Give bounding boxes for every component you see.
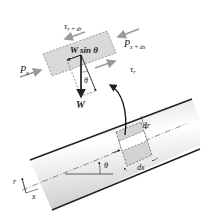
shear-top-arrow (65, 32, 85, 39)
label-dx: dx (137, 163, 145, 172)
label-x-axis: x (31, 192, 36, 201)
label-tau-top: τr + dr (64, 21, 83, 32)
label-theta-inner: θ (84, 76, 88, 85)
label-r-axis: r (13, 177, 17, 186)
shear-bottom-arrow (95, 61, 115, 68)
diagram-canvas: τr + dr τr Px Px + dx W sin θ θ W dr dx … (0, 0, 201, 222)
pressure-right-arrow (118, 29, 139, 37)
diagram-svg: τr + dr τr Px Px + dx W sin θ θ W dr dx … (0, 0, 201, 222)
label-w-sin-theta: W sin θ (70, 45, 98, 55)
coordinate-axes (22, 178, 38, 193)
label-p-left: Px (19, 64, 29, 76)
label-theta-pipe: θ (104, 161, 108, 170)
inclined-pipe (22, 99, 200, 210)
label-p-right: Px + dx (123, 38, 146, 50)
free-body-element (20, 29, 139, 97)
label-weight: W (76, 99, 86, 110)
label-tau-bottom: τr (130, 64, 136, 75)
label-dr: dr (143, 121, 151, 130)
